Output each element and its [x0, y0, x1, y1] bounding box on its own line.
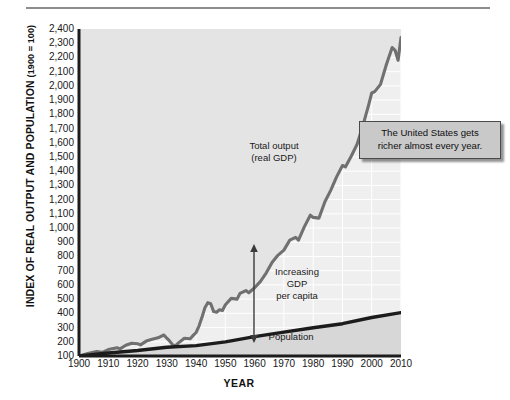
annotation-gdp-gap-line1: Increasing	[261, 266, 333, 278]
annotation-total-output: Total output (real GDP)	[219, 140, 329, 164]
x-axis-tick-labels: 1900191019201930194019501960197019801990…	[0, 358, 510, 372]
callout-line-1: The United States gets	[363, 127, 497, 140]
annotation-increasing-gdp-per-capita: Increasing GDP per capita	[261, 266, 333, 302]
annotation-total-output-line1: Total output	[219, 140, 329, 152]
annotation-population-label: Population	[258, 331, 324, 343]
x-axis-title: YEAR	[78, 377, 400, 389]
plot-area	[0, 0, 510, 400]
callout-box: The United States gets richer almost eve…	[359, 121, 501, 159]
annotation-gdp-gap-line2: GDP	[261, 278, 333, 290]
annotation-total-output-line2: (real GDP)	[219, 152, 329, 164]
annotation-population: Population	[258, 331, 324, 343]
annotation-gdp-gap-line3: per capita	[261, 290, 333, 302]
x-axis-tick-label: 2010	[384, 358, 418, 370]
callout-line-2: richer almost every year.	[363, 140, 497, 153]
chart-figure: INDEX OF REAL OUTPUT AND POPULATION (190…	[0, 0, 510, 400]
